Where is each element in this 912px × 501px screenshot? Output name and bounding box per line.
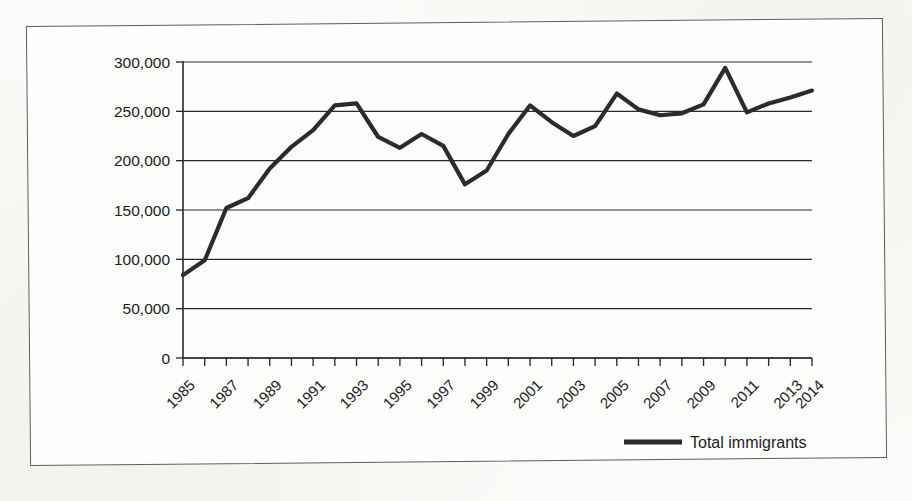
series-total-immigrants: [183, 68, 812, 275]
x-tickmarks-group: [183, 358, 812, 366]
x-tick-label-1997: 1997: [423, 376, 459, 412]
y-tick-label-200000: 200,000: [114, 152, 170, 169]
y-axis-tick-labels: 050,000100,000150,000200,000250,000300,0…: [114, 54, 170, 367]
x-tick-label-1995: 1995: [379, 376, 415, 412]
y-tick-label-300000: 300,000: [114, 54, 170, 71]
x-tick-label-1985: 1985: [163, 376, 199, 412]
y-tick-label-250000: 250,000: [114, 103, 170, 120]
x-tick-label-1987: 1987: [206, 376, 242, 412]
x-tick-label-1993: 1993: [336, 376, 372, 412]
y-tick-label-0: 0: [161, 350, 170, 367]
x-tick-label-2011: 2011: [727, 376, 762, 411]
line-chart: 050,000100,000150,000200,000250,000300,0…: [0, 0, 912, 501]
gridlines-group: [183, 62, 812, 358]
legend-label-0: Total immigrants: [690, 434, 806, 451]
x-tick-label-2009: 2009: [683, 376, 719, 412]
x-tick-label-1999: 1999: [466, 376, 502, 412]
x-tick-label-1989: 1989: [249, 376, 285, 412]
x-tick-label-2007: 2007: [640, 376, 676, 412]
y-tick-label-100000: 100,000: [114, 251, 170, 268]
x-axis-tick-labels: 1985198719891991199319951997199920012003…: [163, 376, 828, 412]
x-tick-label-2005: 2005: [596, 376, 632, 412]
series-line-total-immigrants: [183, 68, 812, 275]
chart-legend: Total immigrants: [624, 434, 806, 451]
x-tick-label-1991: 1991: [293, 376, 329, 412]
x-tick-label-2001: 2001: [510, 376, 546, 412]
y-tick-label-50000: 50,000: [123, 300, 171, 317]
y-tick-label-150000: 150,000: [114, 202, 170, 219]
x-tick-label-2003: 2003: [553, 376, 589, 412]
